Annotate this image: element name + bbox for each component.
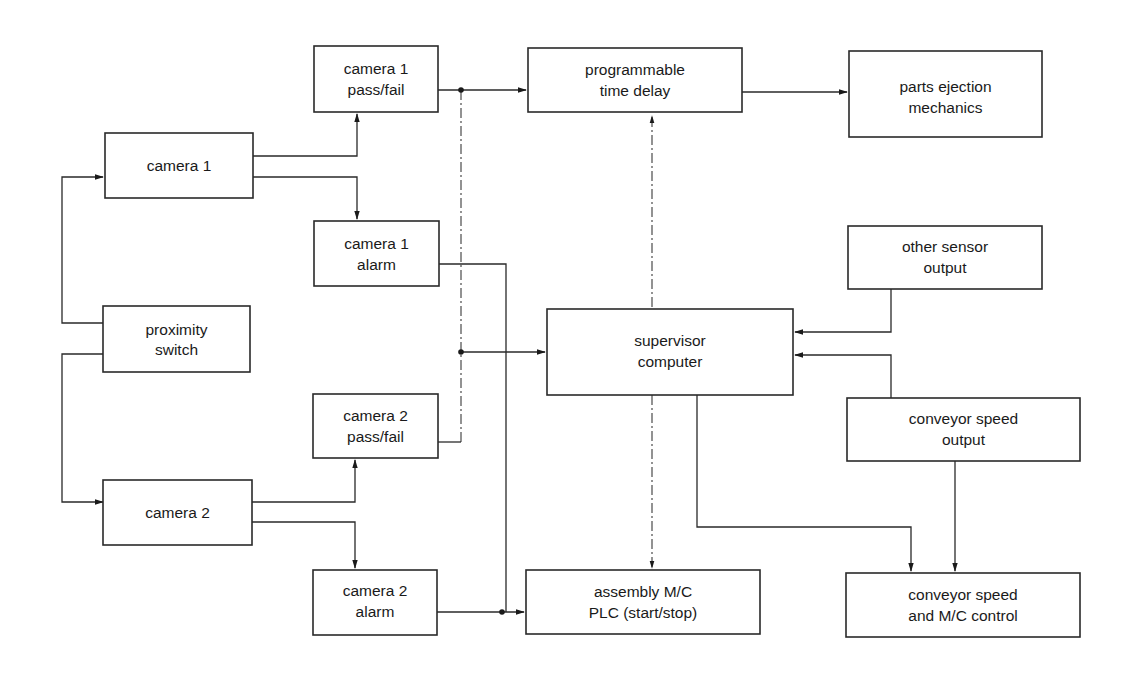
- link-othersensor-supervisor: [795, 289, 891, 332]
- link-proximity-camera1: [62, 177, 103, 323]
- block-camera2-alarm: camera 2 alarm: [313, 570, 437, 635]
- link-camera1-alarm: [253, 177, 357, 219]
- block-label: camera 1: [344, 60, 409, 77]
- block-diagram: camera 1 proximity switch camera 2 camer…: [0, 0, 1138, 676]
- link-camera2-alarm: [252, 522, 355, 568]
- block-label: mechanics: [908, 99, 982, 116]
- block-camera1: camera 1: [105, 133, 253, 198]
- block-programmable-time-delay: programmable time delay: [528, 48, 742, 112]
- block-parts-ejection: parts ejection mechanics: [849, 51, 1042, 137]
- junction-dot: [499, 609, 505, 615]
- block-label: switch: [155, 341, 198, 358]
- block-label: PLC (start/stop): [589, 604, 698, 621]
- block-conveyor-control: conveyor speed and M/C control: [846, 573, 1080, 637]
- block-proximity-switch: proximity switch: [103, 306, 250, 372]
- block-camera1-alarm: camera 1 alarm: [314, 221, 439, 286]
- block-assembly-plc: assembly M/C PLC (start/stop): [526, 570, 760, 634]
- block-label: camera 2: [145, 504, 210, 521]
- block-label: pass/fail: [347, 428, 404, 445]
- block-label: and M/C control: [908, 607, 1017, 624]
- block-label: other sensor: [902, 238, 988, 255]
- link-alarm1-plc: [439, 264, 506, 612]
- block-label: programmable: [585, 61, 685, 78]
- block-camera1-passfail: camera 1 pass/fail: [314, 46, 438, 112]
- block-label: supervisor: [634, 332, 706, 349]
- link-convoutput-supervisor: [795, 355, 891, 398]
- block-label: computer: [638, 353, 703, 370]
- block-label: output: [923, 259, 967, 276]
- block-label: time delay: [600, 82, 671, 99]
- block-label: alarm: [357, 256, 396, 273]
- block-supervisor-computer: supervisor computer: [547, 309, 793, 395]
- link-proximity-camera2: [62, 354, 103, 502]
- junction-dot: [458, 87, 464, 93]
- block-label: camera 2: [343, 407, 408, 424]
- junction-dot: [458, 349, 464, 355]
- block-conveyor-speed-output: conveyor speed output: [847, 398, 1080, 461]
- block-other-sensor-output: other sensor output: [848, 226, 1042, 289]
- block-label: camera 2: [343, 582, 408, 599]
- block-label: output: [942, 431, 986, 448]
- block-camera2: camera 2: [103, 480, 252, 545]
- link-camera1-passfail: [253, 114, 357, 156]
- block-label: camera 1: [147, 157, 212, 174]
- block-label: proximity: [145, 321, 207, 338]
- link-camera2-passfail: [252, 460, 355, 502]
- block-label: assembly M/C: [594, 583, 692, 600]
- block-label: conveyor speed: [909, 410, 1018, 427]
- block-label: parts ejection: [899, 78, 991, 95]
- block-label: conveyor speed: [908, 586, 1017, 603]
- block-camera2-passfail: camera 2 pass/fail: [313, 394, 438, 458]
- block-label: alarm: [356, 603, 395, 620]
- block-label: pass/fail: [348, 81, 405, 98]
- block-label: camera 1: [344, 235, 409, 252]
